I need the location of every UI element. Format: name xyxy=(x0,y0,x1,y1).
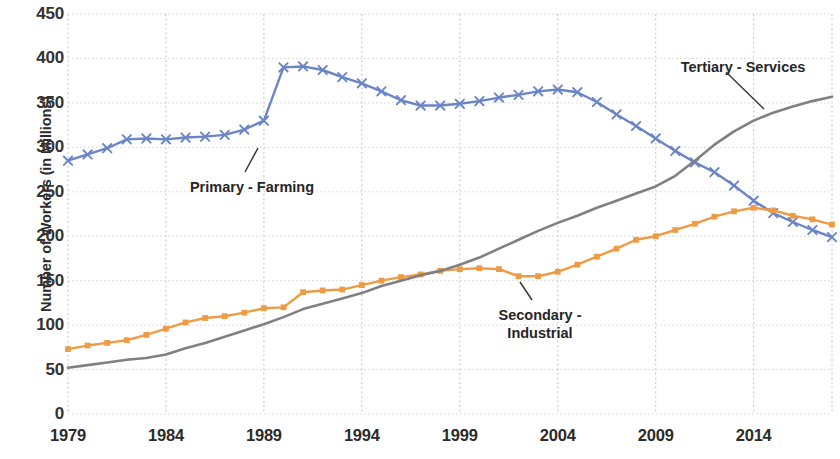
series-line-1 xyxy=(68,208,832,349)
x-axis-tick-label: 2009 xyxy=(638,426,674,445)
annotation-primary-farming: Primary - Farming xyxy=(167,178,337,196)
y-axis-tick-label: 50 xyxy=(4,360,64,380)
data-point-marker xyxy=(633,237,639,243)
data-point-marker xyxy=(555,269,561,275)
data-point-marker xyxy=(731,208,737,214)
y-axis-tick-label: 200 xyxy=(4,226,64,246)
workforce-line-chart: Number of Workers (in Millions) 05010015… xyxy=(0,0,840,459)
data-point-marker xyxy=(143,332,149,338)
x-axis-tick-label: 1979 xyxy=(50,426,86,445)
data-point-marker xyxy=(712,214,718,220)
data-point-marker xyxy=(594,254,600,260)
x-axis-tick-label: 1999 xyxy=(442,426,478,445)
data-point-marker xyxy=(124,337,130,343)
data-point-marker xyxy=(612,110,620,118)
leader-line-primary xyxy=(245,148,258,172)
data-point-marker xyxy=(810,216,816,222)
data-point-marker xyxy=(653,233,659,239)
data-point-marker xyxy=(790,213,796,219)
data-point-marker xyxy=(183,320,189,326)
data-point-marker xyxy=(476,265,482,271)
x-axis-tick-label: 2014 xyxy=(736,426,772,445)
data-point-marker xyxy=(692,221,698,227)
y-axis-tick-label: 450 xyxy=(4,4,64,24)
data-point-marker xyxy=(300,289,306,295)
data-point-marker xyxy=(457,266,463,272)
data-point-marker xyxy=(281,304,287,310)
data-point-marker xyxy=(535,273,541,279)
data-point-marker xyxy=(730,181,738,189)
data-point-marker xyxy=(829,222,835,228)
data-point-marker xyxy=(574,262,580,268)
y-axis-tick-labels: 050100150200250300350400450 xyxy=(0,0,64,459)
data-point-marker xyxy=(104,340,110,346)
x-axis-tick-label: 1984 xyxy=(148,426,184,445)
data-point-marker xyxy=(241,310,247,316)
data-point-marker xyxy=(751,205,757,211)
data-point-marker xyxy=(516,273,522,279)
data-point-marker xyxy=(202,315,208,321)
data-point-marker xyxy=(261,305,267,311)
y-axis-tick-label: 100 xyxy=(4,315,64,335)
data-point-marker xyxy=(320,288,326,294)
data-point-marker xyxy=(770,208,776,214)
y-axis-tick-label: 400 xyxy=(4,48,64,68)
data-point-marker xyxy=(65,346,71,352)
data-point-marker xyxy=(672,227,678,233)
data-point-marker xyxy=(632,122,640,130)
data-point-marker xyxy=(671,147,679,155)
data-point-marker xyxy=(496,266,502,272)
data-point-marker xyxy=(359,282,365,288)
x-axis-tick-label: 1989 xyxy=(246,426,282,445)
data-point-marker xyxy=(614,246,620,252)
data-point-marker xyxy=(85,343,91,349)
leader-line-tertiary xyxy=(726,72,764,109)
series-line-0 xyxy=(68,66,832,237)
y-axis-tick-label: 300 xyxy=(4,137,64,157)
data-point-marker xyxy=(163,326,169,332)
annotation-tertiary-services: Tertiary - Services xyxy=(648,58,838,76)
y-axis-tick-label: 150 xyxy=(4,271,64,291)
leader-line-secondary xyxy=(520,282,532,300)
data-point-marker xyxy=(222,313,228,319)
x-axis-tick-label: 2004 xyxy=(540,426,576,445)
data-point-marker xyxy=(339,287,345,293)
data-point-marker xyxy=(710,168,718,176)
y-axis-tick-label: 250 xyxy=(4,182,64,202)
data-point-marker xyxy=(379,278,385,284)
y-axis-tick-label: 350 xyxy=(4,93,64,113)
data-point-marker xyxy=(593,98,601,106)
annotation-secondary-industrial: Secondary - Industrial xyxy=(470,306,610,342)
x-axis-tick-label: 1994 xyxy=(344,426,380,445)
y-axis-tick-label: 0 xyxy=(4,404,64,424)
